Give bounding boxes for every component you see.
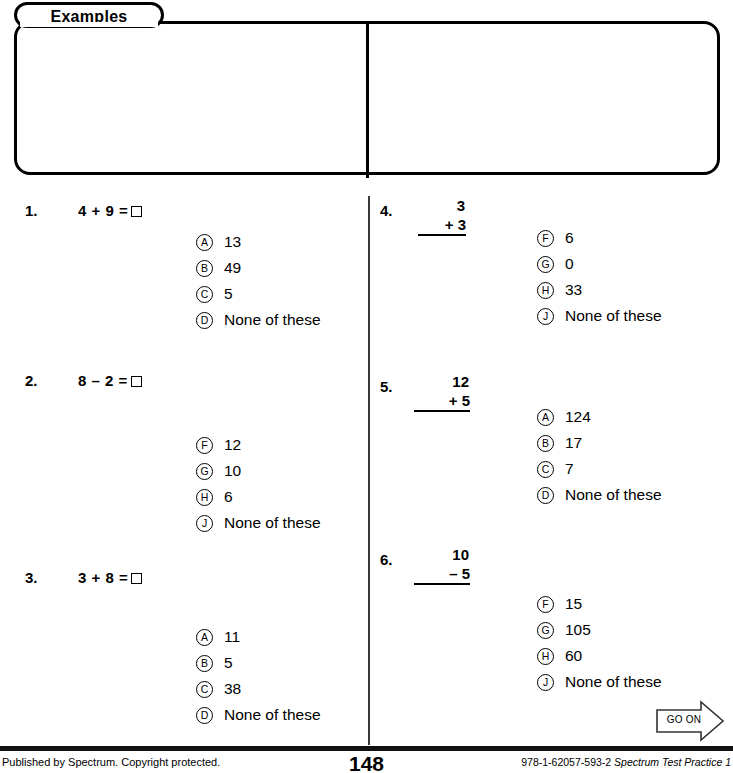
option-bubble-f[interactable]: F [537,596,554,613]
option-row[interactable]: B 5 [196,650,321,676]
answer-box-icon [131,206,142,217]
option-row[interactable]: G 105 [537,617,662,643]
question-6-operand-bottom: 5 [462,565,470,582]
question-2-expression: 8 – 2 = [78,372,128,389]
option-bubble-h[interactable]: H [537,282,554,299]
option-row[interactable]: G 0 [537,251,662,277]
option-bubble-d[interactable]: D [196,312,213,329]
option-bubble-g[interactable]: G [196,463,213,480]
option-bubble-j[interactable]: J [537,674,554,691]
question-2-options: F 12 G 10 H 6 J None of these [196,432,321,536]
option-bubble-j[interactable]: J [196,515,213,532]
option-row[interactable]: F 12 [196,432,321,458]
option-row[interactable]: F 6 [537,225,662,251]
question-3-number: 3. [25,569,38,586]
option-bubble-b[interactable]: B [196,260,213,277]
option-label: 5 [224,654,233,672]
option-bubble-b[interactable]: B [196,655,213,672]
option-bubble-a[interactable]: A [196,629,213,646]
option-row[interactable]: D None of these [196,307,321,333]
question-6-number: 6. [380,551,393,568]
option-label: None of these [224,706,321,724]
option-bubble-c[interactable]: C [196,681,213,698]
option-bubble-h[interactable]: H [537,648,554,665]
question-5-operator-operand: + 5 [414,393,470,412]
option-row[interactable]: J None of these [196,510,321,536]
option-label: 105 [565,621,591,639]
answer-box-icon [131,376,142,387]
option-bubble-d[interactable]: D [196,707,213,724]
option-row[interactable]: C 7 [537,456,662,482]
column-divider [368,196,370,745]
option-label: 60 [565,647,582,665]
question-4-operator-operand: + 3 [418,217,466,236]
option-bubble-g[interactable]: G [537,622,554,639]
option-row[interactable]: C 5 [196,281,321,307]
question-6-vertical-problem: 10 – 5 [414,547,470,585]
option-row[interactable]: J None of these [537,669,662,695]
option-label: 124 [565,408,591,426]
option-label: 5 [224,285,233,303]
option-label: 7 [565,460,574,478]
option-row[interactable]: D None of these [196,702,321,728]
question-3-stem: 3 + 8 = [78,569,142,586]
question-5-vertical-problem: 12 + 5 [414,374,470,412]
option-row[interactable]: F 15 [537,591,662,617]
option-label: None of these [565,673,662,691]
option-bubble-d[interactable]: D [537,487,554,504]
option-row[interactable]: H 33 [537,277,662,303]
question-4-operator: + [445,216,454,233]
question-3-expression: 3 + 8 = [78,569,128,586]
option-bubble-a[interactable]: A [537,409,554,426]
option-label: 6 [565,229,574,247]
option-row[interactable]: C 38 [196,676,321,702]
option-bubble-g[interactable]: G [537,256,554,273]
option-label: None of these [224,514,321,532]
option-row[interactable]: B 49 [196,255,321,281]
question-5-operand-top: 12 [414,374,470,389]
question-4-number: 4. [380,202,393,219]
option-bubble-f[interactable]: F [537,230,554,247]
option-row[interactable]: G 10 [196,458,321,484]
question-6-options: F 15 G 105 H 60 J None of these [537,591,662,695]
option-label: 13 [224,233,241,251]
question-6-operator: – [449,565,457,582]
option-bubble-c[interactable]: C [537,461,554,478]
option-bubble-j[interactable]: J [537,308,554,325]
footer-book-title: Spectrum Test Practice 1 [614,756,731,768]
option-row[interactable]: A 11 [196,624,321,650]
option-row[interactable]: B 17 [537,430,662,456]
option-row[interactable]: A 13 [196,229,321,255]
footer-rule [0,746,733,751]
question-4-operand-top: 3 [418,198,466,213]
go-on-label: GO ON [660,714,708,725]
question-4-vertical-problem: 3 + 3 [418,198,466,236]
option-bubble-a[interactable]: A [196,234,213,251]
option-label: 0 [565,255,574,273]
option-row[interactable]: H 60 [537,643,662,669]
option-bubble-b[interactable]: B [537,435,554,452]
option-bubble-f[interactable]: F [196,437,213,454]
answer-box-icon [131,573,142,584]
question-4-options: F 6 G 0 H 33 J None of these [537,225,662,329]
option-label: 17 [565,434,582,452]
option-label: 11 [224,628,240,646]
question-1-number: 1. [25,202,38,219]
question-1-expression: 4 + 9 = [78,202,128,219]
footer-isbn: 978-1-62057-593-2 [521,756,611,768]
option-bubble-h[interactable]: H [196,489,213,506]
option-label: None of these [565,307,662,325]
question-5-options: A 124 B 17 C 7 D None of these [537,404,662,508]
question-2-number: 2. [25,372,38,389]
option-label: 6 [224,488,233,506]
option-bubble-c[interactable]: C [196,286,213,303]
question-6-operator-operand: – 5 [414,566,470,585]
question-1-options: A 13 B 49 C 5 D None of these [196,229,321,333]
option-row[interactable]: J None of these [537,303,662,329]
option-label: 49 [224,259,241,277]
option-row[interactable]: A 124 [537,404,662,430]
option-row[interactable]: D None of these [537,482,662,508]
option-row[interactable]: H 6 [196,484,321,510]
question-1-stem: 4 + 9 = [78,202,142,219]
question-2-stem: 8 – 2 = [78,372,142,389]
